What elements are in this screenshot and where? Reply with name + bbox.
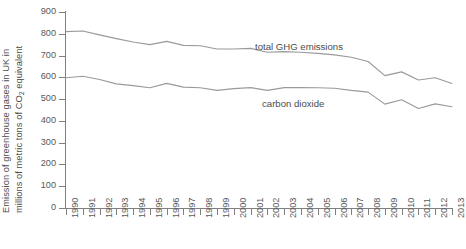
x-tick-2000 xyxy=(234,209,235,215)
y-axis-tick-labels: 9008007006005004003002001000 xyxy=(24,0,56,249)
x-tick-2010 xyxy=(402,209,403,215)
x-tick-2012 xyxy=(435,209,436,215)
x-tick-1997 xyxy=(183,209,184,215)
y-tick-label-100: 100 xyxy=(26,180,56,190)
x-tick-1994 xyxy=(133,209,134,215)
x-tick-1999 xyxy=(217,209,218,215)
y-axis-title-line2-post: equivalent xyxy=(14,46,24,92)
x-tick-1992 xyxy=(100,209,101,215)
x-tick-2009 xyxy=(385,209,386,215)
x-tick-1998 xyxy=(200,209,201,215)
y-tick-label-500: 500 xyxy=(26,93,56,103)
x-tick-label-2013: 2013 xyxy=(456,198,466,218)
x-tick-2002 xyxy=(267,209,268,215)
x-tick-2008 xyxy=(368,209,369,215)
x-tick-2007 xyxy=(351,209,352,215)
y-tick-label-200: 200 xyxy=(26,158,56,168)
y-axis-title-line2-pre: millions of metric tons of CO xyxy=(14,95,24,213)
x-tick-2003 xyxy=(284,209,285,215)
series-label-total-ghg-emissions: total GHG emissions xyxy=(255,41,343,52)
y-tick-label-0: 0 xyxy=(26,202,56,212)
series-label-carbon-dioxide: carbon dioxide xyxy=(262,98,324,109)
x-tick-1995 xyxy=(150,209,151,215)
y-tick-label-400: 400 xyxy=(26,115,56,125)
x-tick-1996 xyxy=(167,209,168,215)
x-tick-2004 xyxy=(301,209,302,215)
x-tick-2011 xyxy=(418,209,419,215)
y-tick-label-300: 300 xyxy=(26,137,56,147)
x-tick-1993 xyxy=(116,209,117,215)
x-tick-1990 xyxy=(66,209,67,215)
series-line-total-ghg-emissions xyxy=(66,31,452,83)
y-axis-title-line1: Emission of greenhouse gases in UK in xyxy=(1,49,11,213)
y-tick-label-700: 700 xyxy=(26,50,56,60)
x-tick-2001 xyxy=(251,209,252,215)
y-tick-label-900: 900 xyxy=(26,6,56,16)
y-tick-label-800: 800 xyxy=(26,28,56,38)
x-tick-2006 xyxy=(335,209,336,215)
x-tick-1991 xyxy=(83,209,84,215)
x-tick-2005 xyxy=(318,209,319,215)
series-line-carbon-dioxide xyxy=(66,76,452,108)
x-tick-2013 xyxy=(452,209,453,215)
y-tick-label-600: 600 xyxy=(26,71,56,81)
